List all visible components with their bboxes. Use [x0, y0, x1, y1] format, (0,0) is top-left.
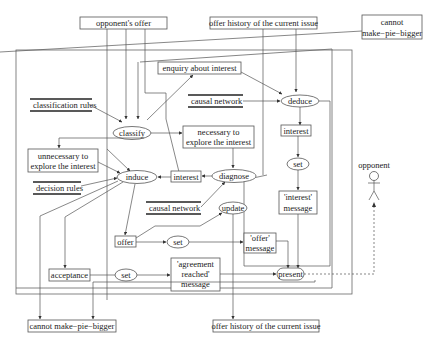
classification-rules-label: classification rules: [33, 100, 97, 110]
interest-msg-line1: 'interest': [284, 192, 313, 202]
causal-network-top-label: causal network: [191, 96, 243, 106]
classification-rules-store: classification rules: [30, 99, 97, 111]
offer-msg-line1: 'offer': [250, 233, 270, 243]
set-interest-label: set: [293, 159, 303, 169]
set-interest-process: set: [287, 158, 309, 170]
offer-label: offer: [117, 237, 134, 247]
actor-head-icon: [370, 172, 379, 181]
induce-label: induce: [126, 172, 149, 182]
opponent-label: opponent: [358, 160, 390, 170]
unnecessary-to-explore-box: unnecessary to explore the interest: [28, 149, 98, 172]
causal-network-top-store: causal network: [188, 95, 243, 107]
necessary-line2: explore the interest: [186, 137, 252, 147]
connector: [0, 31, 362, 52]
connector: [276, 241, 288, 268]
offer-box: offer: [115, 236, 136, 247]
set-offer-process: set: [167, 236, 189, 248]
opponents-offer-box: opponent's offer: [80, 17, 167, 29]
set-acceptance-label: set: [121, 270, 131, 280]
connector: [145, 29, 180, 176]
offer-history-top-box: offer history of the current issue: [209, 17, 318, 29]
interest-left-box: interest: [171, 171, 201, 182]
connector: [241, 72, 282, 94]
interest-msg-line2: message: [284, 203, 313, 213]
diagnose-label: diagnose: [219, 171, 249, 181]
offer-history-top-label: offer history of the current issue: [209, 18, 318, 28]
enquiry-label: enquiry about interest: [162, 63, 237, 73]
causal-network-mid-label: causal network: [149, 203, 201, 213]
agreement-line1: 'agreement: [177, 259, 215, 269]
deduce-label: deduce: [288, 96, 312, 106]
present-to-opponent-dashed-line: [304, 205, 374, 274]
interest-right-box: interest: [281, 125, 311, 136]
connector: [98, 162, 120, 173]
offer-msg-line2: message: [246, 243, 275, 253]
causal-network-mid-store: causal network: [146, 202, 201, 214]
connector: [88, 104, 122, 122]
update-label: update: [222, 203, 245, 213]
connector: [65, 182, 123, 268]
offer-history-bottom-box: offer history of the current issue: [211, 320, 320, 332]
set-acceptance-process: set: [115, 269, 137, 281]
cannot-pie-top-line2: make−pie−bigger: [362, 28, 422, 38]
agreement-reached-message-box: 'agreement reached' message: [171, 258, 220, 291]
interest-left-label: interest: [173, 172, 199, 182]
diagnose-process: diagnose: [212, 170, 256, 183]
update-process: update: [219, 202, 247, 214]
cannot-pie-bottom-label: cannot make−pie−bigger: [30, 321, 115, 331]
classify-label: classify: [119, 128, 146, 138]
interest-message-box: 'interest' message: [279, 191, 317, 214]
offer-message-box: 'offer' message: [244, 233, 276, 253]
present-process: present: [277, 268, 304, 280]
arrowhead: [372, 202, 376, 207]
enquiry-about-interest-box: enquiry about interest: [158, 62, 241, 74]
opponent-actor: opponent: [358, 160, 390, 200]
unnecessary-line1: unnecessary to: [38, 151, 88, 161]
interest-right-label: interest: [283, 126, 309, 136]
set-offer-label: set: [173, 237, 183, 247]
opponents-offer-label: opponent's offer: [96, 18, 151, 28]
connector: [125, 184, 135, 235]
unnecessary-line2: explore the interest: [30, 161, 96, 171]
present-label: present: [278, 269, 303, 279]
connector: [81, 178, 117, 186]
connector: [40, 181, 118, 319]
cannot-pie-top-box: cannot make−pie−bigger: [362, 15, 422, 39]
actor-left-leg: [369, 191, 374, 200]
agreement-line3: message: [181, 279, 210, 289]
decision-rules-label: decision rules: [36, 183, 83, 193]
induce-process: induce: [117, 171, 157, 184]
offer-history-bottom-label: offer history of the current issue: [211, 321, 320, 331]
connector: [136, 213, 222, 238]
negotiation-flow-diagram: opponent's offer offer history of the cu…: [0, 0, 442, 355]
connector: [107, 149, 130, 171]
necessary-line1: necessary to: [198, 127, 240, 137]
acceptance-label: acceptance: [51, 270, 88, 280]
deduce-process: deduce: [281, 95, 319, 107]
necessary-to-explore-box: necessary to explore the interest: [183, 126, 254, 148]
actor-right-leg: [374, 191, 379, 200]
acceptance-box: acceptance: [49, 269, 90, 281]
cannot-pie-bottom-box: cannot make−pie−bigger: [28, 320, 116, 332]
cannot-pie-top-line1: cannot: [381, 17, 404, 27]
connector: [147, 75, 193, 120]
agreement-line2: reached': [182, 269, 210, 279]
classify-process: classify: [113, 127, 151, 140]
decision-rules-store: decision rules: [33, 182, 83, 194]
